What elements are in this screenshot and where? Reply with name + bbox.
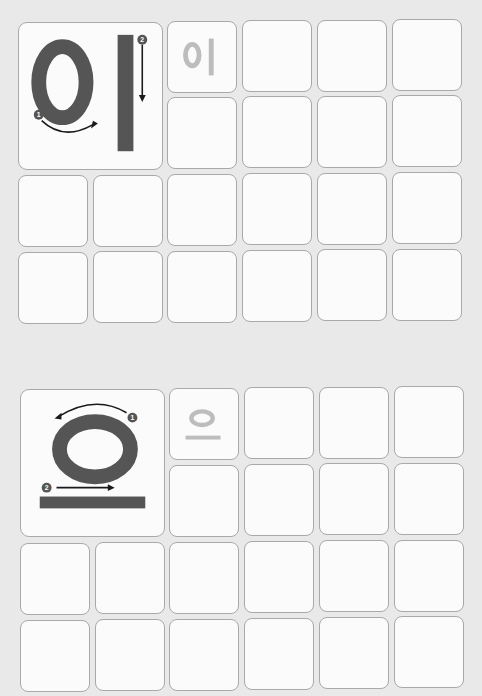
practice-cell[interactable]	[95, 619, 165, 691]
section-syllable: 이	[0, 0, 1, 1]
practice-cell[interactable]	[394, 540, 464, 612]
practice-cell[interactable]	[242, 250, 312, 322]
practice-cell[interactable]	[394, 463, 464, 535]
svg-text:1: 1	[131, 414, 135, 421]
practice-cell[interactable]	[169, 542, 239, 614]
practice-cell[interactable]	[242, 173, 312, 245]
practice-cell[interactable]	[319, 617, 389, 689]
stroke-order-demo-i: 1 2	[18, 22, 163, 170]
practice-cell[interactable]	[319, 463, 389, 535]
svg-text:2: 2	[140, 36, 144, 43]
practice-cell[interactable]	[394, 616, 464, 688]
trace-cell-example[interactable]	[167, 21, 237, 93]
practice-cell[interactable]	[20, 543, 90, 615]
practice-cell[interactable]	[169, 619, 239, 691]
stroke-order-glyph-eu-icon: 1 2	[21, 390, 164, 536]
stroke-order-demo-eu: 1 2	[20, 389, 165, 537]
trace-cell-example[interactable]	[169, 388, 239, 460]
section-syllable: 으	[0, 380, 1, 381]
practice-cell[interactable]	[93, 175, 163, 247]
practice-cell[interactable]	[317, 20, 387, 92]
practice-cell[interactable]	[244, 387, 314, 459]
stroke-order-glyph-i-icon: 1 2	[19, 23, 162, 169]
practice-cell[interactable]	[167, 251, 237, 323]
practice-cell[interactable]	[95, 542, 165, 614]
svg-text:1: 1	[37, 111, 41, 118]
practice-cell[interactable]	[317, 249, 387, 321]
svg-text:2: 2	[45, 484, 49, 491]
trace-glyph-i-icon	[168, 22, 236, 92]
practice-cell[interactable]	[392, 249, 462, 321]
practice-section-eu: 으 1 2	[0, 380, 482, 696]
practice-cell[interactable]	[18, 175, 88, 247]
practice-cell[interactable]	[392, 19, 462, 91]
practice-cell[interactable]	[319, 540, 389, 612]
practice-cell[interactable]	[244, 541, 314, 613]
practice-cell[interactable]	[244, 464, 314, 536]
practice-cell[interactable]	[93, 251, 163, 323]
practice-section-i: 이 1 2	[0, 0, 482, 340]
practice-cell[interactable]	[317, 96, 387, 168]
practice-cell[interactable]	[18, 252, 88, 324]
trace-glyph-eu-icon	[170, 389, 238, 459]
practice-cell[interactable]	[20, 620, 90, 692]
practice-cell[interactable]	[392, 95, 462, 167]
practice-cell[interactable]	[392, 172, 462, 244]
practice-cell[interactable]	[167, 97, 237, 169]
practice-cell[interactable]	[244, 618, 314, 690]
practice-cell[interactable]	[317, 173, 387, 245]
practice-cell[interactable]	[167, 174, 237, 246]
practice-cell[interactable]	[319, 387, 389, 459]
practice-cell[interactable]	[169, 465, 239, 537]
practice-cell[interactable]	[242, 20, 312, 92]
practice-cell[interactable]	[394, 386, 464, 458]
practice-cell[interactable]	[242, 96, 312, 168]
